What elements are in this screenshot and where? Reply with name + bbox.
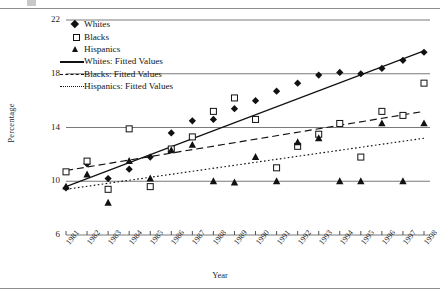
chart-legend: Whites Blacks Hispanics Whites: Fitted V…: [60, 18, 173, 92]
data-point-hispanics: [357, 177, 364, 184]
data-point-whites: [126, 166, 133, 173]
data-point-hispanics: [252, 153, 259, 160]
data-point-whites: [147, 153, 154, 160]
legend-item-blacks-fit: Blacks: Fitted Values: [60, 68, 173, 80]
legend-item-whites: Whites: [60, 18, 173, 30]
data-point-hispanics: [336, 177, 343, 184]
legend-label: Whites: [84, 19, 110, 29]
data-point-whites: [273, 88, 280, 95]
data-point-hispanics: [104, 199, 111, 206]
y-axis-tick-label: 14: [34, 122, 60, 132]
y-axis-tick-label: 10: [34, 175, 60, 185]
data-point-whites: [168, 129, 175, 136]
data-point-blacks: [84, 158, 90, 164]
legend-item-blacks: Blacks: [60, 30, 173, 42]
data-point-blacks: [253, 116, 259, 122]
data-point-blacks: [379, 108, 385, 114]
data-point-whites: [336, 69, 343, 76]
data-point-whites: [231, 105, 238, 112]
data-point-blacks: [358, 154, 364, 160]
legend-label: Hispanics: Fitted Values: [84, 81, 173, 91]
dashed-line-icon: [60, 68, 84, 80]
data-point-blacks: [105, 186, 111, 192]
data-point-hispanics: [189, 141, 196, 148]
data-point-blacks: [63, 169, 69, 175]
dotted-line-icon: [60, 80, 84, 92]
legend-item-hispanics-fit: Hispanics: Fitted Values: [60, 80, 173, 92]
data-point-hispanics: [83, 171, 90, 178]
legend-label: Whites: Fitted Values: [84, 56, 163, 66]
y-axis-tick-label: 18: [34, 68, 60, 78]
data-point-blacks: [147, 184, 153, 190]
x-axis-title: Year: [0, 270, 440, 280]
data-point-blacks: [421, 80, 427, 86]
legend-item-hispanics: Hispanics: [60, 43, 173, 55]
data-point-whites: [294, 80, 301, 87]
legend-item-whites-fit: Whites: Fitted Values: [60, 55, 173, 67]
data-point-hispanics: [147, 175, 154, 182]
data-point-hispanics: [294, 138, 301, 145]
y-axis-title: Percentage: [6, 91, 16, 155]
data-point-hispanics: [378, 119, 385, 126]
legend-label: Blacks: Fitted Values: [84, 69, 162, 79]
data-point-whites: [210, 116, 217, 123]
figure-container: Percentage Year Whites Blacks Hispanics …: [0, 0, 440, 298]
filled-triangle-icon: [60, 43, 84, 55]
open-square-icon: [60, 31, 84, 43]
data-point-hispanics: [420, 119, 427, 126]
data-point-blacks: [210, 108, 216, 114]
data-point-hispanics: [273, 177, 280, 184]
data-point-blacks: [231, 95, 237, 101]
data-point-blacks: [126, 126, 132, 132]
data-point-hispanics: [231, 179, 238, 186]
data-point-hispanics: [210, 177, 217, 184]
y-axis-tick-label: 22: [34, 14, 60, 24]
data-point-blacks: [274, 165, 280, 171]
data-point-blacks: [337, 120, 343, 126]
data-point-whites: [420, 49, 427, 56]
data-point-blacks: [400, 112, 406, 118]
data-point-whites: [315, 71, 322, 78]
data-point-whites: [189, 117, 196, 124]
solid-line-icon: [60, 55, 84, 67]
y-axis-tick-label: 6: [34, 229, 60, 239]
legend-label: Hispanics: [84, 44, 120, 54]
data-point-hispanics: [399, 177, 406, 184]
filled-diamond-icon: [60, 18, 84, 30]
data-point-whites: [252, 97, 259, 104]
legend-label: Blacks: [84, 32, 109, 42]
data-point-blacks: [189, 134, 195, 140]
fit-line-dashed: [66, 111, 424, 170]
